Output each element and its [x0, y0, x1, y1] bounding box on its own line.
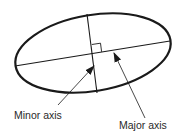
- minor-axis-label: Minor axis: [14, 109, 62, 121]
- major-axis-label: Major axis: [119, 119, 167, 131]
- minor-axis-pointer-arrow: [58, 66, 94, 105]
- ellipse-diagram: Minor axis Major axis: [0, 0, 178, 140]
- right-angle-marker: [92, 43, 102, 52]
